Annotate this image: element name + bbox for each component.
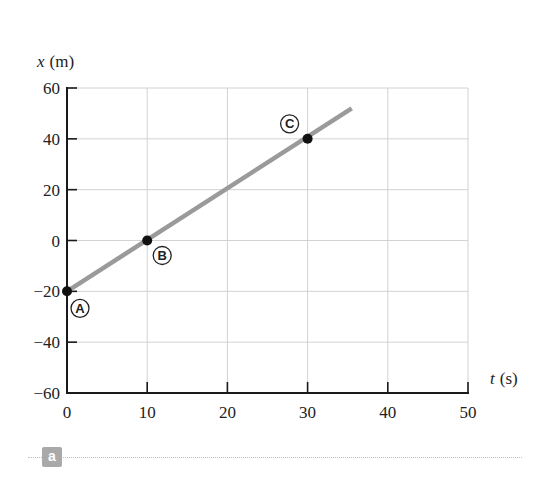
y-tick-label: 20 bbox=[43, 181, 60, 200]
x-axis-title: t(s) bbox=[490, 369, 518, 388]
x-tick-label: 30 bbox=[299, 403, 316, 422]
y-tick-label: 60 bbox=[43, 79, 60, 98]
point-label-c: C bbox=[285, 116, 295, 131]
data-point-b bbox=[142, 236, 152, 246]
data-point-c bbox=[303, 134, 313, 144]
y-tick-label: −60 bbox=[33, 384, 60, 403]
y-tick-label: 40 bbox=[43, 130, 60, 149]
position-time-chart: 010203040506040200−20−40−60 ABC x(m) t(s… bbox=[0, 0, 551, 486]
grid-lines bbox=[67, 88, 468, 393]
x-tick-label: 0 bbox=[63, 403, 72, 422]
point-label-b: B bbox=[158, 248, 167, 263]
y-tick-label: −20 bbox=[33, 282, 60, 301]
x-tick-label: 20 bbox=[219, 403, 236, 422]
y-tick-label: 0 bbox=[52, 232, 61, 251]
data-point-a bbox=[62, 286, 72, 296]
x-tick-label: 40 bbox=[379, 403, 396, 422]
y-tick-label: −40 bbox=[33, 333, 60, 352]
x-tick-label: 50 bbox=[460, 403, 477, 422]
point-label-a: A bbox=[75, 301, 85, 316]
axis-titles: x(m) t(s) bbox=[36, 52, 518, 388]
panel-label-badge: a bbox=[42, 447, 62, 467]
panel-divider bbox=[28, 457, 522, 458]
tick-labels: 010203040506040200−20−40−60 bbox=[33, 79, 476, 422]
y-axis-title: x(m) bbox=[36, 52, 74, 71]
x-tick-label: 10 bbox=[139, 403, 156, 422]
